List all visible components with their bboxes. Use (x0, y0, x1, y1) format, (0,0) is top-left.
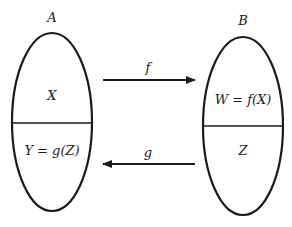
set-a: A X Y = g(Z) (12, 10, 93, 211)
arrow-g: g (103, 145, 195, 164)
arrow-g-label: g (144, 145, 152, 160)
set-a-ellipse (12, 33, 92, 211)
arrow-f: f (103, 60, 195, 80)
set-b: B W = f(X) Z (203, 13, 283, 215)
set-b-label: B (237, 13, 248, 28)
set-a-bottom-region-label: Y = g(Z) (24, 143, 79, 158)
arrow-f-label: f (145, 60, 153, 75)
mapping-diagram: A X Y = g(Z) B W = f(X) Z f g (0, 0, 292, 227)
set-b-top-region-label: W = f(X) (215, 92, 272, 107)
set-a-top-region-label: X (46, 88, 57, 103)
set-b-bottom-region-label: Z (237, 143, 248, 158)
set-a-label: A (46, 10, 56, 25)
